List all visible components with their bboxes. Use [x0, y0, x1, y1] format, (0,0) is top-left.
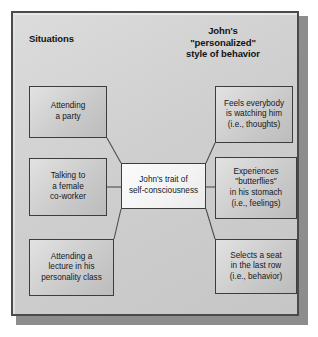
node-coworker-line-2: a female	[52, 182, 83, 191]
diagram-stage: Situations John's "personalized" style o…	[11, 11, 299, 316]
node-party-line-1: Attending	[51, 101, 86, 110]
node-party-line-2: a party	[55, 112, 80, 121]
node-thoughts-line-2: is watching him	[226, 109, 282, 118]
node-lecture-line-3: personality class	[41, 273, 102, 282]
node-coworker-line-1: Talking to	[51, 171, 86, 180]
node-feelings-line-3: in his stomach	[230, 188, 282, 197]
node-thoughts-line-3: (i.e., thoughts)	[228, 120, 280, 129]
node-feelings-line-1: Experiences	[233, 167, 278, 176]
node-lecture-line-1: Attending a	[51, 252, 92, 261]
node-feelings-line-4: (i.e., feelings)	[231, 199, 280, 208]
node-behavior-line-1: Selects a seat	[230, 251, 281, 260]
node-trait-self-consciousness: John's trait of self-consciousness	[121, 163, 206, 209]
node-situation-party: Attending a party	[29, 86, 107, 138]
node-situation-lecture: Attending a lecture in his personality c…	[29, 239, 114, 296]
connector-trait-to-thoughts	[206, 143, 215, 163]
node-behavior-line-3: (i.e., behavior)	[230, 272, 282, 281]
node-behavior-thoughts: Feels everybody is watching him (i.e., t…	[215, 86, 293, 143]
connector-trait-to-lecture	[114, 209, 121, 239]
node-behavior-feelings: Experiences "butterflies" in his stomach…	[215, 157, 297, 219]
connector-party-to-trait	[107, 138, 121, 163]
node-trait-line-2: self-consciousness	[129, 186, 198, 195]
diagram-figure: Situations John's "personalized" style o…	[0, 0, 318, 337]
node-lecture-line-2: lecture in his	[49, 262, 95, 271]
connector-trait-to-behavior	[206, 209, 215, 239]
node-thoughts-line-1: Feels everybody	[224, 99, 284, 108]
node-trait-line-1: John's trait of	[139, 175, 187, 184]
node-behavior-seat: Selects a seat in the last row (i.e., be…	[215, 239, 297, 294]
node-behavior-line-2: in the last row	[231, 261, 282, 270]
node-feelings-line-2: "butterflies"	[235, 177, 276, 186]
node-situation-coworker: Talking to a female co-worker	[29, 158, 107, 216]
node-coworker-line-3: co-worker	[50, 192, 86, 201]
